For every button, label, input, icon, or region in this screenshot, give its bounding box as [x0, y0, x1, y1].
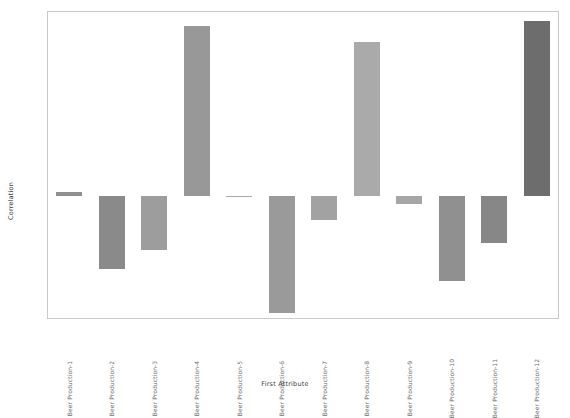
x-axis-tick-mark [324, 318, 325, 319]
x-axis-tick-label-text: Beer Production-7 [321, 361, 328, 416]
x-axis-tick-mark [154, 318, 155, 319]
y-axis-tick-mark [47, 38, 48, 39]
bar[interactable] [184, 26, 210, 196]
x-axis-tick-label-text: Beer Production-12 [533, 359, 540, 418]
y-axis-tick-mark [47, 108, 48, 109]
y-axis-tick-mark [47, 178, 48, 179]
x-axis-tick-label-text: Beer Production-8 [363, 361, 370, 416]
y-axis-tick-mark [47, 125, 48, 126]
y-axis-tick-mark [47, 73, 48, 74]
x-axis-tick-label-text: Beer Production-2 [108, 361, 115, 416]
bar[interactable] [524, 21, 550, 196]
plot-area: 1.00.90.80.70.60.50.40.30.20.10.0-0.1-0.… [47, 11, 559, 319]
x-axis-tick-mark [452, 318, 453, 319]
x-axis-tick-label-text: Beer Production-11 [491, 359, 498, 418]
y-axis-title: Correlation [4, 0, 18, 402]
y-axis-tick-mark [47, 230, 48, 231]
x-axis-tick-mark [197, 318, 198, 319]
bar[interactable] [354, 42, 380, 196]
y-axis-title-text: Correlation [7, 182, 15, 220]
x-axis-tick-label-text: Beer Production-10 [448, 359, 455, 418]
x-axis-tick-mark [69, 318, 70, 319]
x-axis-tick-mark [537, 318, 538, 319]
x-axis-tick-label-text: Beer Production-4 [193, 361, 200, 416]
y-axis-tick-mark [47, 300, 48, 301]
y-axis-tick-mark [47, 90, 48, 91]
bar[interactable] [481, 196, 507, 243]
plot-inner: 1.00.90.80.70.60.50.40.30.20.10.0-0.1-0.… [48, 12, 558, 318]
x-axis-tick-mark [409, 318, 410, 319]
y-axis-tick-mark [47, 143, 48, 144]
y-axis-tick-mark [47, 213, 48, 214]
y-axis-tick-mark [47, 283, 48, 284]
x-axis-tick-mark [282, 318, 283, 319]
y-axis-tick-mark [47, 20, 48, 21]
bar[interactable] [99, 196, 125, 269]
x-axis-tick-mark [112, 318, 113, 319]
y-axis-tick-mark [47, 265, 48, 266]
x-axis-tick-label-text: Beer Production-5 [236, 361, 243, 416]
bar[interactable] [226, 196, 252, 198]
bar[interactable] [439, 196, 465, 282]
x-axis-tick-mark [494, 318, 495, 319]
bar[interactable] [311, 196, 337, 220]
x-axis-tick-label-text: Beer Production-6 [278, 361, 285, 416]
x-axis-tick-label-text: Beer Production-1 [66, 361, 73, 416]
y-axis-tick-mark [47, 195, 48, 196]
y-axis-tick-mark [47, 248, 48, 249]
y-axis-tick-mark [47, 55, 48, 56]
bar[interactable] [396, 196, 422, 205]
y-axis-tick-mark [47, 318, 48, 319]
x-axis-title: First Attribute [0, 380, 570, 388]
x-axis-tick-label-text: Beer Production-3 [151, 361, 158, 416]
bar[interactable] [141, 196, 167, 250]
y-axis-tick-mark [47, 160, 48, 161]
bar[interactable] [56, 192, 82, 195]
x-axis-tick-mark [367, 318, 368, 319]
x-axis-tick-mark [239, 318, 240, 319]
bar[interactable] [269, 196, 295, 313]
x-axis-tick-label-text: Beer Production-9 [406, 361, 413, 416]
